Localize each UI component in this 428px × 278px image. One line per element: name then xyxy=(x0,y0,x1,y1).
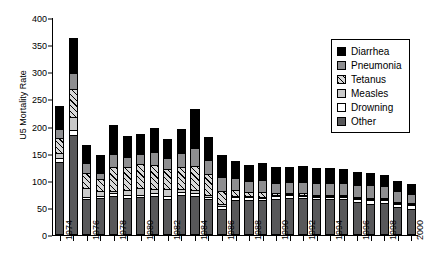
bar-segment-pneumonia xyxy=(259,181,266,193)
bar-segment-pneumonia xyxy=(408,195,415,205)
x-tick-label: 1992 xyxy=(307,220,317,240)
bar-slot xyxy=(215,18,229,235)
bar-slot xyxy=(242,18,256,235)
bar-slot xyxy=(148,18,162,235)
bar-segment-diarrhea xyxy=(354,173,361,185)
x-tick-label: 1998 xyxy=(388,220,398,240)
bar-segment-diarrhea xyxy=(218,156,225,178)
bar-slot xyxy=(283,18,297,235)
x-tick-label: 1986 xyxy=(226,220,236,240)
bar-segment-diarrhea xyxy=(299,167,306,182)
bar-segment-diarrhea xyxy=(70,39,77,74)
legend-item-measles[interactable]: Measles xyxy=(337,86,402,100)
bar-segment-diarrhea xyxy=(313,169,320,184)
bar-slot xyxy=(296,18,310,235)
x-tick-label: 1982 xyxy=(172,220,182,240)
bar-segment-tetanus xyxy=(83,174,90,189)
bar-segment-diarrhea xyxy=(326,169,333,184)
y-tick-mark xyxy=(48,100,52,101)
bar-segment-diarrhea xyxy=(164,140,171,160)
legend-label: Drowning xyxy=(351,102,393,113)
bar-segment-pneumonia xyxy=(218,178,225,192)
bar-segment-other xyxy=(272,200,279,234)
bar-slot xyxy=(107,18,121,235)
bar-segment-diarrhea xyxy=(56,107,63,130)
bar-segment-tetanus xyxy=(56,139,63,154)
bar-segment-diarrhea xyxy=(259,164,266,181)
bar-segment-diarrhea xyxy=(178,130,185,154)
bar-segment-pneumonia xyxy=(367,186,374,199)
bar-segment-tetanus xyxy=(164,170,171,190)
bar-slot xyxy=(175,18,189,235)
bar-segment-diarrhea xyxy=(381,176,388,187)
bar-segment-diarrhea xyxy=(151,129,158,153)
bar-segment-pneumonia xyxy=(164,159,171,170)
bar-segment-tetanus xyxy=(97,180,104,192)
bar-segment-diarrhea xyxy=(124,137,131,158)
bar-segment-pneumonia xyxy=(110,155,117,167)
bar-segment-pneumonia xyxy=(394,192,401,203)
stacked-bar[interactable] xyxy=(82,145,91,235)
bar-segment-pneumonia xyxy=(83,164,90,174)
bar-slot xyxy=(161,18,175,235)
swatch-measles-icon xyxy=(337,89,346,98)
stacked-bar-chart: U5 Mortality Rate 0501001502002503003504… xyxy=(0,0,428,278)
bar-segment-diarrhea xyxy=(232,162,239,179)
bar-segment-other xyxy=(326,200,333,234)
bar-slot xyxy=(269,18,283,235)
bar-segment-other xyxy=(164,200,171,234)
legend-label: Diarrhea xyxy=(351,46,389,57)
bar-segment-tetanus xyxy=(110,168,117,192)
bar-segment-diarrhea xyxy=(110,126,117,156)
x-tick-label: 1994 xyxy=(334,220,344,240)
x-tick-label: 1990 xyxy=(280,220,290,240)
stacked-bar[interactable] xyxy=(190,109,199,235)
bar-segment-diarrhea xyxy=(137,135,144,155)
bar-segment-other xyxy=(245,201,252,234)
legend-label: Measles xyxy=(351,88,388,99)
bar-segment-tetanus xyxy=(137,165,144,189)
bar-segment-tetanus xyxy=(124,168,131,191)
x-tick-label: 2000 xyxy=(415,220,425,240)
bar-slot xyxy=(67,18,81,235)
bar-slot xyxy=(80,18,94,235)
legend-item-other[interactable]: Other xyxy=(337,114,402,128)
legend-item-tetanus[interactable]: Tetanus xyxy=(337,72,402,86)
bar-segment-pneumonia xyxy=(191,149,198,166)
bar-segment-measles xyxy=(70,118,77,130)
swatch-tetanus-icon xyxy=(337,75,346,84)
bar-segment-tetanus xyxy=(151,166,158,190)
swatch-other-icon xyxy=(337,117,346,126)
bar-segment-diarrhea xyxy=(340,170,347,184)
bar-segment-diarrhea xyxy=(408,185,415,194)
bar-segment-other xyxy=(408,210,415,234)
bar-slot xyxy=(121,18,135,235)
bar-segment-pneumonia xyxy=(151,153,158,166)
bar-segment-diarrhea xyxy=(97,156,104,173)
stacked-bar[interactable] xyxy=(55,106,64,235)
bar-segment-pneumonia xyxy=(299,183,306,195)
bar-segment-pneumonia xyxy=(178,154,185,168)
bar-segment-diarrhea xyxy=(394,182,401,192)
x-tick-label: 1976 xyxy=(91,220,101,240)
legend-item-pneumonia[interactable]: Pneumonia xyxy=(337,58,402,72)
bar-segment-tetanus xyxy=(205,175,212,196)
bar-slot xyxy=(53,18,67,235)
x-tick-label: 1996 xyxy=(361,220,371,240)
stacked-bar[interactable] xyxy=(69,38,78,235)
bar-segment-other xyxy=(83,200,90,234)
y-tick-mark xyxy=(48,181,52,182)
y-tick-mark xyxy=(48,236,52,237)
bar-slot xyxy=(94,18,108,235)
legend-item-diarrhea[interactable]: Diarrhea xyxy=(337,44,402,58)
stacked-bar[interactable] xyxy=(109,125,118,235)
legend-label: Tetanus xyxy=(351,74,386,85)
bar-segment-pneumonia xyxy=(313,184,320,196)
bar-segment-pneumonia xyxy=(70,74,77,90)
legend-item-drowning[interactable]: Drowning xyxy=(337,100,402,114)
bar-segment-pneumonia xyxy=(124,158,131,168)
swatch-drowning-icon xyxy=(337,103,346,112)
bar-segment-measles xyxy=(83,189,90,198)
bar-slot xyxy=(256,18,270,235)
bar-segment-diarrhea xyxy=(205,138,212,161)
